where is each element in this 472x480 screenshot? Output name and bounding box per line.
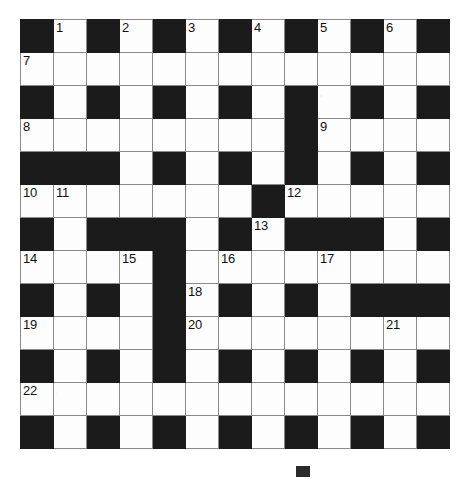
crossword-cell[interactable]	[384, 350, 417, 383]
crossword-cell[interactable]	[351, 383, 384, 416]
crossword-cell[interactable]: 17	[318, 251, 351, 284]
crossword-cell[interactable]	[87, 251, 120, 284]
crossword-cell[interactable]	[384, 53, 417, 86]
crossword-cell[interactable]: 15	[120, 251, 153, 284]
crossword-cell[interactable]	[219, 317, 252, 350]
crossword-cell[interactable]	[186, 251, 219, 284]
crossword-cell[interactable]	[186, 53, 219, 86]
crossword-cell[interactable]	[54, 251, 87, 284]
crossword-cell[interactable]	[318, 350, 351, 383]
crossword-cell[interactable]: 20	[186, 317, 219, 350]
crossword-cell[interactable]	[252, 152, 285, 185]
crossword-cell[interactable]	[120, 152, 153, 185]
crossword-cell[interactable]	[219, 383, 252, 416]
crossword-cell[interactable]	[186, 185, 219, 218]
crossword-cell[interactable]	[87, 383, 120, 416]
crossword-cell[interactable]	[252, 383, 285, 416]
crossword-cell[interactable]: 14	[21, 251, 54, 284]
crossword-cell[interactable]: 3	[186, 20, 219, 53]
crossword-cell[interactable]	[351, 119, 384, 152]
crossword-cell[interactable]	[318, 317, 351, 350]
crossword-cell[interactable]	[54, 317, 87, 350]
crossword-cell[interactable]	[186, 152, 219, 185]
crossword-cell[interactable]	[120, 53, 153, 86]
crossword-cell[interactable]	[417, 185, 450, 218]
crossword-cell[interactable]	[54, 284, 87, 317]
crossword-cell[interactable]	[186, 350, 219, 383]
crossword-cell[interactable]	[318, 152, 351, 185]
crossword-cell[interactable]	[219, 53, 252, 86]
crossword-cell[interactable]	[384, 218, 417, 251]
crossword-cell[interactable]	[87, 119, 120, 152]
crossword-cell[interactable]	[285, 251, 318, 284]
crossword-cell[interactable]	[285, 383, 318, 416]
crossword-cell[interactable]	[87, 317, 120, 350]
crossword-cell[interactable]: 6	[384, 20, 417, 53]
crossword-cell[interactable]	[417, 251, 450, 284]
crossword-cell[interactable]	[54, 86, 87, 119]
crossword-cell[interactable]	[384, 416, 417, 449]
crossword-cell[interactable]	[87, 53, 120, 86]
crossword-cell[interactable]	[252, 416, 285, 449]
crossword-cell[interactable]	[186, 86, 219, 119]
crossword-cell[interactable]	[120, 350, 153, 383]
crossword-cell[interactable]	[417, 383, 450, 416]
crossword-cell[interactable]	[186, 416, 219, 449]
crossword-cell[interactable]	[351, 317, 384, 350]
crossword-cell[interactable]	[120, 383, 153, 416]
crossword-cell[interactable]: 7	[21, 53, 54, 86]
crossword-cell[interactable]	[252, 317, 285, 350]
crossword-cell[interactable]	[384, 86, 417, 119]
crossword-cell[interactable]	[87, 185, 120, 218]
crossword-cell[interactable]: 8	[21, 119, 54, 152]
crossword-cell[interactable]	[54, 53, 87, 86]
crossword-cell[interactable]	[417, 119, 450, 152]
crossword-cell[interactable]: 2	[120, 20, 153, 53]
crossword-cell[interactable]	[252, 86, 285, 119]
crossword-cell[interactable]	[318, 383, 351, 416]
crossword-cell[interactable]	[318, 185, 351, 218]
crossword-cell[interactable]	[54, 119, 87, 152]
crossword-cell[interactable]	[318, 53, 351, 86]
crossword-cell[interactable]	[351, 185, 384, 218]
crossword-cell[interactable]	[252, 350, 285, 383]
crossword-cell[interactable]	[285, 53, 318, 86]
crossword-cell[interactable]: 19	[21, 317, 54, 350]
crossword-cell[interactable]	[54, 416, 87, 449]
crossword-cell[interactable]	[120, 317, 153, 350]
crossword-cell[interactable]: 1	[54, 20, 87, 53]
crossword-cell[interactable]: 12	[285, 185, 318, 218]
crossword-grid[interactable]: 12345678910111213141516171819202122	[20, 19, 450, 449]
crossword-cell[interactable]	[384, 251, 417, 284]
crossword-cell[interactable]: 16	[219, 251, 252, 284]
crossword-cell[interactable]	[186, 218, 219, 251]
crossword-cell[interactable]	[384, 152, 417, 185]
crossword-cell[interactable]	[54, 383, 87, 416]
crossword-cell[interactable]	[351, 251, 384, 284]
crossword-cell[interactable]	[186, 383, 219, 416]
crossword-cell[interactable]	[120, 416, 153, 449]
crossword-cell[interactable]	[252, 284, 285, 317]
crossword-cell[interactable]	[384, 185, 417, 218]
crossword-cell[interactable]	[318, 86, 351, 119]
crossword-cell[interactable]: 22	[21, 383, 54, 416]
crossword-cell[interactable]	[252, 251, 285, 284]
crossword-cell[interactable]	[153, 53, 186, 86]
crossword-cell[interactable]: 4	[252, 20, 285, 53]
crossword-cell[interactable]	[384, 383, 417, 416]
crossword-cell[interactable]	[153, 383, 186, 416]
crossword-cell[interactable]	[252, 119, 285, 152]
crossword-cell[interactable]: 10	[21, 185, 54, 218]
crossword-cell[interactable]	[153, 119, 186, 152]
crossword-cell[interactable]	[384, 119, 417, 152]
crossword-cell[interactable]	[120, 185, 153, 218]
crossword-cell[interactable]	[285, 317, 318, 350]
crossword-cell[interactable]	[219, 185, 252, 218]
crossword-cell[interactable]: 18	[186, 284, 219, 317]
crossword-cell[interactable]	[219, 119, 252, 152]
crossword-cell[interactable]	[54, 218, 87, 251]
crossword-cell[interactable]: 5	[318, 20, 351, 53]
crossword-cell[interactable]	[351, 53, 384, 86]
crossword-cell[interactable]	[120, 284, 153, 317]
crossword-cell[interactable]	[252, 53, 285, 86]
